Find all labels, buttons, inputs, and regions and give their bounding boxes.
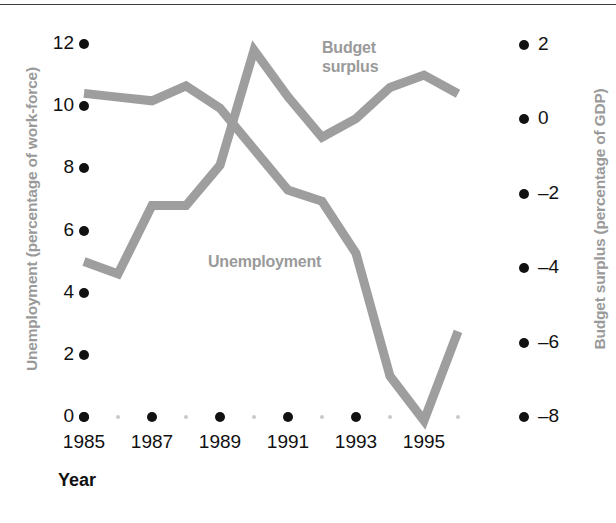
plot-area <box>0 0 616 523</box>
chart-figure: Unemployment (percentage of work-force) … <box>0 0 616 523</box>
line-budget-surplus <box>84 86 458 421</box>
line-unemployment <box>84 50 458 274</box>
